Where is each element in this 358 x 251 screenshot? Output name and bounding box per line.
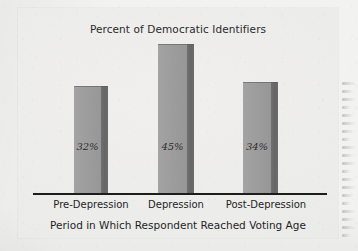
bar-face [243, 82, 271, 194]
bar-pre-depression: 32% [74, 86, 108, 194]
bar-value-label-depression: 45% [158, 141, 187, 152]
bleed-line [342, 154, 354, 157]
bleed-line [342, 122, 356, 125]
bar-value-label-pre-depression: 32% [74, 141, 101, 152]
bleed-line [342, 202, 351, 205]
bar-top-edge [158, 44, 194, 45]
category-axis-labels: Pre-Depression Depression Post-Depressio… [18, 199, 338, 217]
figure-panel: Percent of Democratic Identifiers 32% 45… [18, 8, 338, 238]
bar-face [158, 44, 187, 194]
x-axis-title: Period in Which Respondent Reached Votin… [18, 219, 338, 231]
bar-group-depression: 45% [158, 8, 194, 194]
bleed-line [342, 218, 354, 221]
bleed-line [342, 138, 351, 141]
bar-depression: 45% [158, 44, 194, 194]
bleed-line [342, 162, 356, 165]
bar-group-post-depression: 34% [243, 8, 278, 194]
x-axis-baseline [33, 193, 327, 195]
plot-area: 32% 45% 34% [18, 8, 338, 194]
bar-side-shadow [187, 44, 194, 194]
bleed-line [342, 178, 354, 181]
bleed-line [342, 90, 354, 93]
bleed-line [342, 98, 356, 101]
bleed-line [342, 186, 356, 189]
bar-group-pre-depression: 32% [74, 8, 108, 194]
page-bleedthrough-text [342, 82, 356, 248]
bar-side-shadow [271, 82, 278, 194]
bleed-line [342, 82, 356, 85]
bleed-line [342, 210, 356, 213]
bar-post-depression: 34% [243, 82, 278, 194]
bar-top-edge [243, 82, 278, 83]
bar-side-shadow [101, 86, 108, 194]
bleed-line [342, 194, 354, 197]
bleed-line [342, 114, 354, 117]
bleed-line [342, 146, 356, 149]
bleed-line [342, 106, 351, 109]
bleed-line [342, 226, 356, 229]
bleed-line [342, 234, 351, 237]
category-label-post-depression: Post-Depression [210, 199, 322, 210]
category-label-pre-depression: Pre-Depression [39, 199, 143, 210]
bar-top-edge [74, 86, 108, 87]
bar-value-label-post-depression: 34% [243, 141, 271, 152]
bleed-line [342, 170, 351, 173]
category-label-depression: Depression [136, 199, 216, 210]
bar-face [74, 86, 101, 194]
bleed-line [342, 130, 354, 133]
